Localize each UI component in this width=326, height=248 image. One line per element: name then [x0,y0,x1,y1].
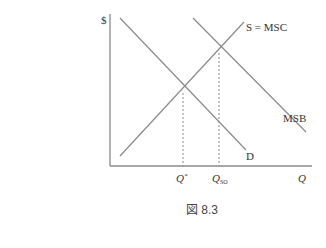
q-star-label: Q* [176,172,188,184]
figure-caption: 図 8.3 [186,203,218,217]
supply-label: S = MSC [246,21,287,33]
supply-demand-diagram: $ S = MSC MSB D Q* QSO Q 図 8.3 [0,0,326,248]
y-axis-label: $ [101,14,107,26]
q-so-label: QSO [212,172,228,185]
msb-label: MSB [283,112,306,124]
demand-label: D [246,150,254,162]
x-axis-label: Q [298,172,306,184]
supply-curve [120,22,244,156]
